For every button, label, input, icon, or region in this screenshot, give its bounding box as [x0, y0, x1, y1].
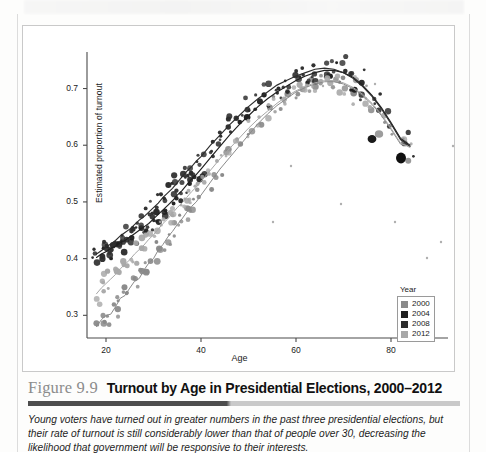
x-tick-label: 20 [91, 345, 121, 355]
page-edge-left [17, 14, 18, 452]
legend-swatch-2012 [401, 331, 408, 338]
y-tick-label: 0.6 [48, 139, 78, 149]
page-bleed-through [24, 0, 464, 14]
legend-box: 2000200420082012 [397, 296, 435, 342]
legend-swatch-2008 [401, 321, 408, 328]
figure-title: Turnout by Age in Presidential Elections… [107, 380, 442, 396]
y-axis-label: Estimated proportion of turnout [94, 63, 104, 223]
x-tick-label: 40 [186, 345, 216, 355]
x-tick-label: 80 [376, 345, 406, 355]
legend-item-2004: 2004 [401, 309, 430, 319]
y-tick-label: 0.4 [48, 253, 78, 263]
y-tick-label: 0.5 [48, 196, 78, 206]
y-tick-label: 0.3 [48, 309, 78, 319]
scatter-plot: Estimated proportion of turnout Age 0.30… [23, 26, 456, 373]
figure-caption: Figure 9.9 Turnout by Age in Presidentia… [28, 378, 462, 456]
figure-frame: Estimated proportion of turnout Age 0.30… [22, 25, 455, 372]
legend-label-2000: 2000 [412, 299, 430, 309]
x-tick-label: 60 [281, 345, 311, 355]
legend-item-2012: 2012 [401, 329, 430, 339]
figure-number: Figure 9.9 [28, 378, 98, 398]
caption-body: Young voters have turned out in greater … [28, 413, 456, 456]
plot-canvas [23, 26, 456, 373]
y-tick-label: 0.7 [48, 83, 78, 93]
legend-item-2008: 2008 [401, 319, 430, 329]
legend-swatch-2000 [401, 301, 408, 308]
caption-rule [28, 401, 460, 406]
legend: Year 2000200420082012 [397, 285, 459, 342]
legend-swatch-2004 [401, 311, 408, 318]
legend-label-2004: 2004 [412, 309, 430, 319]
caption-heading: Figure 9.9 Turnout by Age in Presidentia… [28, 378, 462, 398]
legend-label-2012: 2012 [412, 329, 430, 339]
legend-label-2008: 2008 [412, 319, 430, 329]
legend-title: Year [400, 285, 459, 294]
page-edge-right [469, 14, 470, 452]
legend-item-2000: 2000 [401, 299, 430, 309]
